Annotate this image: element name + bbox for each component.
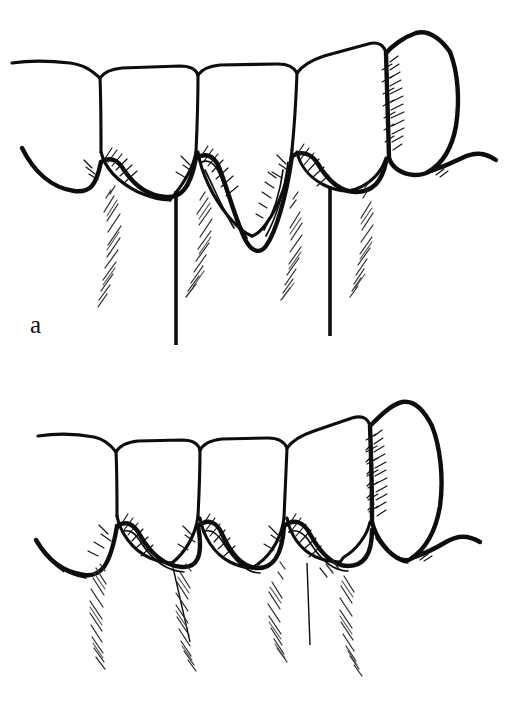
panel-a-drawing bbox=[0, 0, 507, 360]
gingival-margin-a bbox=[22, 148, 496, 251]
panel-label-a: a bbox=[30, 312, 41, 337]
gingival-fibre-hatching-b bbox=[52, 430, 432, 572]
panel-b-drawing bbox=[0, 360, 507, 714]
tooth-crowns-b bbox=[38, 402, 432, 452]
figure-root: a bbox=[0, 0, 507, 714]
bone-hatching-soft-b bbox=[90, 573, 357, 665]
probe-line-1 bbox=[172, 563, 190, 642]
periodontal-probes-b bbox=[172, 563, 310, 645]
panel-a: a bbox=[0, 0, 507, 360]
probe-line-2 bbox=[307, 563, 310, 645]
bone-hatching-b bbox=[90, 560, 362, 676]
panel-b: b bbox=[0, 360, 507, 714]
